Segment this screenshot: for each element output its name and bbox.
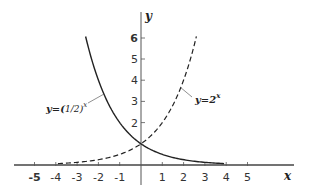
y-tick-label: 2	[131, 117, 138, 130]
curve-two-power-x	[58, 36, 196, 163]
pointer-arrow-a	[88, 94, 104, 103]
svg-text:y=2x: y=2x	[194, 91, 221, 105]
axes	[14, 12, 294, 185]
exponential-graph: -5-4-3-2-112345 23456 x y y=(1/2)x y=2x	[0, 0, 309, 195]
y-tick-label: 6	[130, 32, 138, 45]
y-tick-label: 5	[131, 53, 138, 66]
svg-text:y=(1/2)x: y=(1/2)x	[45, 101, 87, 114]
x-tick-label: 1	[159, 171, 166, 184]
y-ticks: 23456	[130, 32, 145, 130]
y-axis-label: y	[144, 9, 153, 23]
x-tick-label: -2	[93, 171, 104, 184]
x-tick-label: 3	[201, 171, 208, 184]
pointer-arrow-b	[180, 87, 192, 97]
x-tick-label: 5	[244, 171, 251, 184]
x-tick-label: -3	[72, 171, 83, 184]
label-half-power-x: y=(1/2)x	[45, 94, 104, 114]
x-axis-label: x	[283, 169, 292, 183]
x-tick-label: -4	[50, 171, 61, 184]
label-two-power-x: y=2x	[180, 87, 221, 105]
y-tick-label: 3	[131, 95, 138, 108]
x-tick-label: -5	[28, 171, 40, 184]
x-tick-label: 2	[180, 171, 187, 184]
x-tick-label: -1	[114, 171, 125, 184]
y-tick-label: 4	[131, 74, 138, 87]
x-tick-label: 4	[223, 171, 230, 184]
